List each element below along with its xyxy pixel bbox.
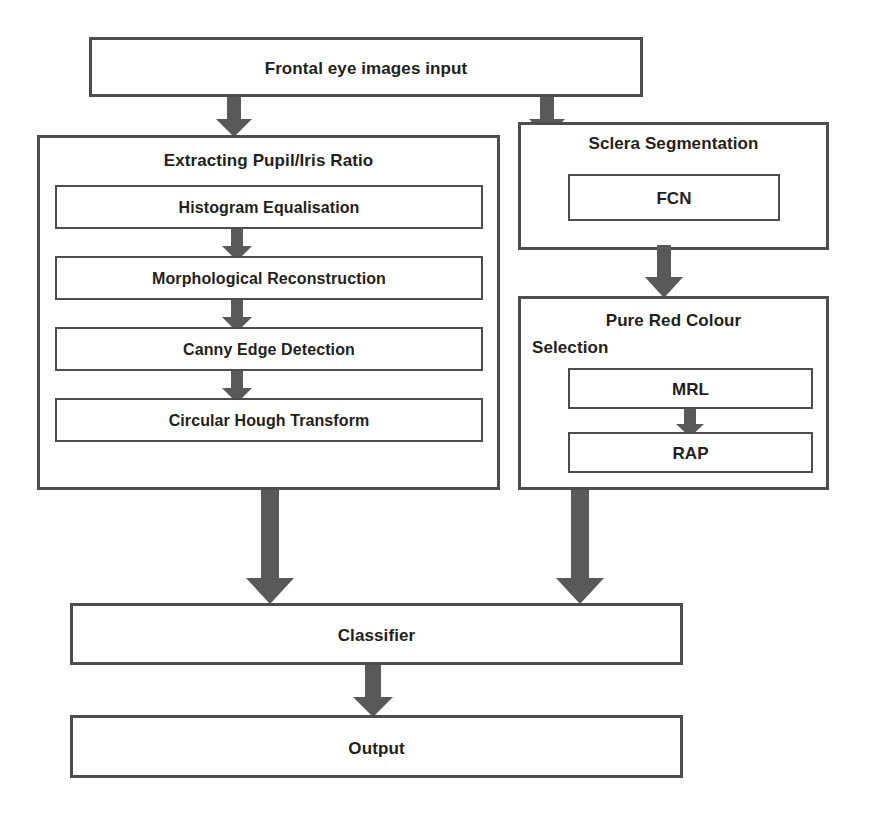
arrow-input-to-pupil-iris (216, 97, 252, 137)
node-rap-box[interactable]: RAP (568, 432, 813, 473)
arrow-sclera-to-pure-red (645, 245, 683, 298)
node-pure-red-group-label-line1: Pure Red Colour (521, 311, 826, 331)
node-rap-label: RAP (570, 444, 811, 464)
node-histogram-label: Histogram Equalisation (57, 199, 481, 217)
node-mrl-label: MRL (570, 380, 811, 400)
arrow-pure-red-to-classifier (556, 490, 604, 604)
node-classifier-box[interactable]: Classifier (70, 603, 683, 665)
flowchart-canvas: Frontal eye images input Extracting Pupi… (0, 0, 871, 814)
node-output-box[interactable]: Output (70, 715, 683, 778)
node-classifier-label: Classifier (73, 626, 680, 646)
node-canny-label: Canny Edge Detection (57, 341, 481, 359)
arrow-classifier-to-output (353, 665, 393, 717)
node-histogram-box[interactable]: Histogram Equalisation (55, 185, 483, 229)
node-hough-label: Circular Hough Transform (57, 412, 481, 430)
node-mrl-box[interactable]: MRL (568, 368, 813, 409)
node-morphological-box[interactable]: Morphological Reconstruction (55, 256, 483, 300)
node-input-label: Frontal eye images input (92, 59, 640, 79)
node-fcn-label: FCN (570, 189, 778, 209)
node-fcn-box[interactable]: FCN (568, 174, 780, 221)
node-hough-box[interactable]: Circular Hough Transform (55, 398, 483, 442)
node-sclera-group-label: Sclera Segmentation (521, 134, 826, 154)
node-pupil-iris-group-label: Extracting Pupil/Iris Ratio (40, 151, 497, 171)
node-input-box[interactable]: Frontal eye images input (89, 37, 643, 97)
node-output-label: Output (73, 739, 680, 759)
node-canny-box[interactable]: Canny Edge Detection (55, 327, 483, 371)
node-morphological-label: Morphological Reconstruction (57, 270, 481, 288)
arrow-pupil-iris-to-classifier (246, 490, 294, 604)
node-pure-red-group-label-line2: Selection (532, 338, 608, 358)
